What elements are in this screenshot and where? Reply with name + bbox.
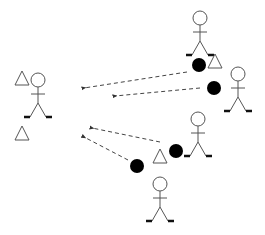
stick-figure-receiver (24, 73, 52, 117)
head-icon (231, 67, 245, 81)
head-icon (191, 112, 205, 126)
stick-figures (24, 11, 252, 221)
pass-arrows (84, 72, 200, 160)
ball-icon (192, 58, 206, 72)
triangle-icon (15, 71, 29, 85)
head-icon (193, 11, 207, 25)
stick-figure-bottom (146, 177, 174, 221)
dashed-arrow-icon (84, 72, 187, 88)
triangle-icon (153, 149, 167, 163)
stick-figure-right (224, 67, 252, 111)
head-icon (153, 177, 167, 191)
ball-icon (207, 81, 221, 95)
dashed-arrow-icon (92, 128, 160, 142)
triangle-markers (15, 54, 222, 163)
stick-figure-top (186, 11, 214, 55)
dashed-arrow-icon (115, 88, 200, 96)
head-icon (31, 73, 45, 87)
dashed-arrow-icon (84, 137, 128, 160)
stick-figure-middle (184, 112, 212, 156)
diagram-canvas (0, 0, 265, 235)
triangle-icon (15, 126, 29, 140)
ball-icon (169, 144, 183, 158)
ball-icon (130, 159, 144, 173)
